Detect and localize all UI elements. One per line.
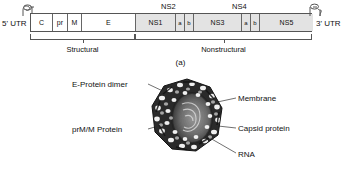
structural-bracket-tick <box>83 39 84 43</box>
callout-prm-m-protein: prM/M Protein <box>72 125 122 134</box>
gene-box-ns3: NS3 <box>194 14 242 31</box>
callout-capsid-protein: Capsid protein <box>238 124 290 133</box>
gene-box-b: b <box>251 14 260 31</box>
gene-box-c: C <box>31 14 53 31</box>
utr-3-prime-label: 3' UTR <box>316 19 341 28</box>
gene-box-ns1: NS1 <box>136 14 176 31</box>
gene-box-pr: pr <box>53 14 68 31</box>
gene-box-e: E <box>82 14 136 31</box>
gene-box-ns5: NS5 <box>260 14 313 31</box>
gene-box-a: a <box>176 14 185 31</box>
ns2-group-label: NS2 <box>161 2 176 11</box>
callout-membrane: Membrane <box>238 94 276 103</box>
panel-b-virion: E-Protein dimer prM/M Protein Membrane C… <box>0 70 361 182</box>
utr-5-prime-label: 5' UTR <box>2 19 27 28</box>
ns4-group-label: NS4 <box>232 2 247 11</box>
genome-bar: CprMENS1abNS3abNS5 <box>30 13 312 32</box>
gene-box-b: b <box>185 14 194 31</box>
3-prime-stem-loop-icon <box>307 3 325 16</box>
panel-a-caption: (a) <box>0 58 361 67</box>
callout-e-protein-dimer: E-Protein dimer <box>72 80 128 89</box>
nonstructural-bracket-tick <box>224 39 225 43</box>
callout-rna: RNA <box>238 150 255 159</box>
structural-bracket <box>30 34 135 40</box>
gene-box-m: M <box>68 14 82 31</box>
nonstructural-bracket <box>135 34 312 40</box>
virion-particle-illustration <box>150 78 224 154</box>
structural-label: Structural <box>30 45 135 54</box>
gene-box-a: a <box>242 14 251 31</box>
panel-a-genome-map: 5' UTR NS2 NS4 CprMENS1abNS3abNS5 3' UTR… <box>0 0 361 70</box>
nonstructural-label: Nonstructural <box>135 45 312 54</box>
